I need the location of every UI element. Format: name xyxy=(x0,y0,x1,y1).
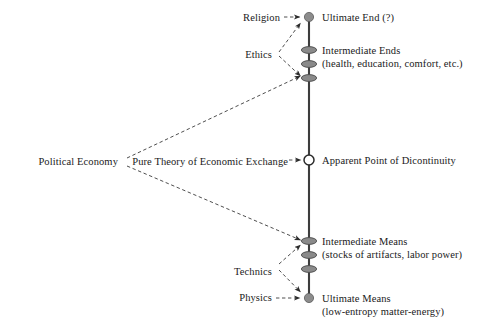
label-ethics-text: Ethics xyxy=(245,49,272,60)
label-political-economy-text: Political Economy xyxy=(38,156,118,167)
connector-political-economy-down xyxy=(127,166,301,240)
label-intermediate-ends: Intermediate Ends (health, education, co… xyxy=(322,44,463,70)
label-intermediate-ends-main: Intermediate Ends xyxy=(322,45,400,56)
node-intermediate-means-1 xyxy=(301,238,316,245)
label-ultimate-means: Ultimate Means (low-entropy matter-energ… xyxy=(322,292,444,318)
label-apparent-point-of-discontinuity: Apparent Point of Dicontinuity xyxy=(322,154,456,167)
connector-technics-to-intermediate-means xyxy=(279,245,301,264)
label-ethics: Ethics xyxy=(172,48,272,61)
node-apparent-discontinuity xyxy=(304,155,314,165)
connector-political-economy-up xyxy=(127,76,301,158)
ends-means-diagram: Ultimate End (?) Intermediate Ends (heal… xyxy=(0,0,486,331)
connector-ethics-to-intermediate-ends xyxy=(279,56,301,76)
label-pure-theory-of-economic-exchange-text: Pure Theory of Economic Exchange xyxy=(132,156,288,167)
label-intermediate-means-sub: (stocks of artifacts, labor power) xyxy=(322,248,462,261)
label-ultimate-means-sub: (low-entropy matter-energy) xyxy=(322,305,444,318)
label-political-economy: Political Economy xyxy=(18,155,118,168)
label-technics: Technics xyxy=(172,265,272,278)
label-ultimate-means-main: Ultimate Means xyxy=(322,293,391,304)
label-ultimate-end: Ultimate End (?) xyxy=(322,11,394,24)
label-physics-text: Physics xyxy=(239,292,272,303)
node-intermediate-ends-2 xyxy=(301,61,316,68)
label-intermediate-means: Intermediate Means (stocks of artifacts,… xyxy=(322,235,462,261)
label-religion-text: Religion xyxy=(243,12,280,23)
label-intermediate-means-main: Intermediate Means xyxy=(322,236,407,247)
node-intermediate-ends-3 xyxy=(301,75,316,82)
label-intermediate-ends-sub: (health, education, comfort, etc.) xyxy=(322,57,463,70)
connector-ethics-to-ultimate-end xyxy=(279,23,301,52)
node-intermediate-ends-1 xyxy=(301,47,316,54)
node-ultimate-means xyxy=(304,293,313,302)
label-technics-text: Technics xyxy=(234,266,272,277)
label-religion: Religion xyxy=(180,11,280,24)
node-ultimate-end xyxy=(304,12,313,21)
label-apparent-point-of-discontinuity-main: Apparent Point of Dicontinuity xyxy=(322,155,456,166)
node-intermediate-means-2 xyxy=(301,252,316,259)
label-pure-theory-of-economic-exchange: Pure Theory of Economic Exchange xyxy=(128,155,288,168)
connector-technics-to-ultimate-means xyxy=(279,270,301,292)
label-physics: Physics xyxy=(172,291,272,304)
label-ultimate-end-main: Ultimate End (?) xyxy=(322,12,394,23)
node-intermediate-means-3 xyxy=(301,266,316,273)
